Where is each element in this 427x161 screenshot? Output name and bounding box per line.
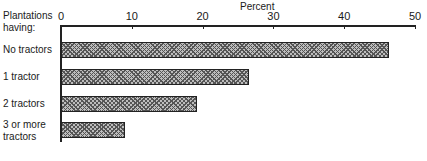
- x-axis-line: [60, 25, 415, 27]
- x-tick-mark: [415, 25, 416, 29]
- category-label: 3 or more tractors: [3, 119, 46, 143]
- x-tick-label: 50: [409, 10, 421, 22]
- category-label: 1 tractor: [3, 71, 40, 83]
- bar: [61, 69, 249, 85]
- bar: [61, 96, 197, 112]
- category-label: 2 tractors: [3, 98, 45, 110]
- row-header-label: Plantations having:: [3, 10, 52, 34]
- x-tick-label: 40: [338, 10, 350, 22]
- bar: [61, 122, 125, 138]
- x-tick-label: 30: [267, 10, 279, 22]
- x-tick-label: 0: [58, 10, 64, 22]
- bar: [61, 42, 389, 58]
- x-tick-label: 10: [126, 10, 138, 22]
- x-tick-label: 20: [196, 10, 208, 22]
- category-label: No tractors: [3, 44, 52, 56]
